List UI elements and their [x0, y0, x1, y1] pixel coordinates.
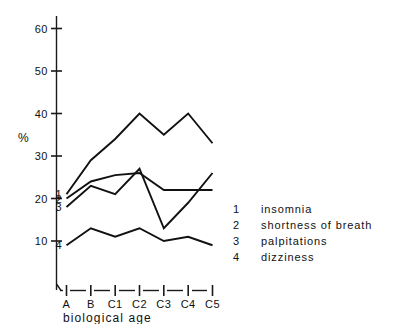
x-tick-label: C4: [181, 298, 196, 310]
x-tick-label: C3: [156, 298, 171, 310]
x-tick-label: C5: [205, 298, 220, 310]
y-tick-label: 40: [35, 108, 48, 120]
legend-label: palpitations: [261, 235, 327, 247]
series-tag-4: 4: [55, 239, 61, 251]
legend-key: 2: [233, 219, 261, 231]
y-tick-label: 30: [35, 150, 48, 162]
y-tick-label: 20: [35, 193, 48, 205]
series-line-dizziness: [67, 228, 213, 245]
legend-label: insomnia: [261, 203, 312, 215]
legend-key: 4: [233, 251, 261, 263]
legend-key: 1: [233, 203, 261, 215]
legend-label: dizziness: [261, 251, 314, 263]
legend-key: 3: [233, 235, 261, 247]
legend-item: 2 shortness of breath: [233, 219, 393, 235]
x-tick-label: C2: [132, 298, 147, 310]
series-tag-3: 3: [55, 201, 61, 213]
series-line-shortness-of-breath: [67, 173, 213, 199]
y-axis-tick-labels: 60 50 40 30 20 10: [35, 23, 48, 248]
y-tick-label: 10: [35, 235, 48, 247]
series-line-palpitations: [67, 169, 213, 229]
x-axis-title: biological age: [63, 311, 152, 324]
legend-item: 3 palpitations: [233, 235, 393, 251]
y-tick-label: 60: [35, 23, 48, 35]
line-chart-plot: 60 50 40 30 20 10 %: [0, 0, 399, 324]
y-tick-label: 50: [35, 65, 48, 77]
x-tick-label: A: [63, 298, 71, 310]
legend-label: shortness of breath: [261, 219, 372, 231]
x-tick-label: C1: [108, 298, 123, 310]
x-axis-ticks: [67, 285, 213, 296]
x-axis-tick-labels: A B C1 C2 C3 C4 C5: [63, 298, 220, 310]
y-axis-unit-label: %: [18, 131, 29, 145]
chart-legend: 1 insomnia 2 shortness of breath 3 palpi…: [233, 203, 393, 267]
x-tick-label: B: [87, 298, 95, 310]
chart-figure: 60 50 40 30 20 10 %: [0, 0, 399, 324]
legend-item: 1 insomnia: [233, 203, 393, 219]
legend-item: 4 dizziness: [233, 251, 393, 267]
